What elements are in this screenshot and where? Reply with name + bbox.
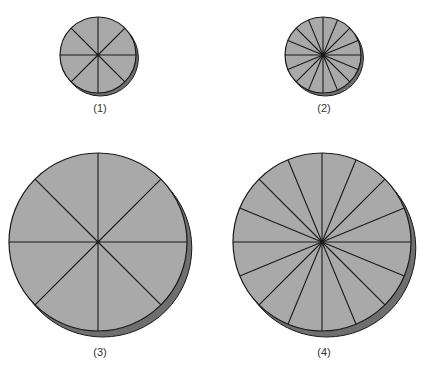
disk-3 — [9, 153, 192, 337]
disk-label-2: (2) — [317, 102, 330, 114]
fraction-disks-diagram — [0, 0, 427, 371]
disk-label-1: (1) — [93, 102, 106, 114]
disk-4 — [233, 153, 416, 337]
disk-1 — [60, 17, 138, 96]
disk-label-4: (4) — [317, 346, 330, 358]
disk-2 — [285, 17, 363, 96]
disk-label-3: (3) — [93, 346, 106, 358]
